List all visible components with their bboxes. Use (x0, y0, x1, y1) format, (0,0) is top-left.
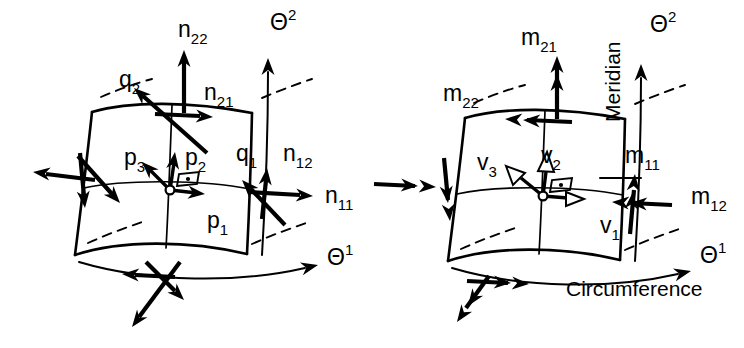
base-vector-p1 (170, 186, 206, 201)
shell-bottom-edge (75, 244, 247, 255)
label-m11: m11 (625, 142, 660, 173)
label-n12: n12 (283, 140, 312, 171)
label-p1: p1 (207, 207, 228, 238)
label-m21: m21 (521, 24, 557, 55)
right-angle-marker-left (177, 172, 199, 186)
force-resultants-panel: n22 Θ2 q2 n21 p3 p2 q1 n12 n11 p1 Θ1 (32, 6, 353, 331)
origin-point-left (166, 186, 175, 195)
shell-hidden-dash-bottom-left (88, 222, 142, 243)
moment-m12 (612, 196, 672, 211)
moment-cluster-left-face (374, 158, 456, 222)
shell-element-diagram: n22 Θ2 q2 n21 p3 p2 q1 n12 n11 p1 Θ1 (0, 0, 744, 348)
moment-cluster-bottom-face (452, 276, 530, 326)
label-v3: v3 (477, 149, 497, 180)
label-n11: n11 (325, 182, 353, 213)
left-face-moment-arrowhead-outer (419, 180, 437, 194)
shell-hidden-dash-top-left-right (474, 85, 525, 103)
m22-arrowhead-outer (505, 113, 523, 127)
theta2-axis-left (262, 58, 275, 255)
shell-right-edge-right (620, 119, 625, 260)
force-cluster-bottom-face (122, 262, 189, 331)
v3-arrowhead (506, 166, 525, 185)
label-m22: m22 (443, 80, 479, 111)
origin-point-right (539, 192, 548, 201)
force-cluster-left-face (32, 153, 125, 209)
shell-hidden-dash-top-right (262, 79, 312, 98)
shell-hidden-dash-bottom-right-right (625, 229, 679, 250)
label-m12: m12 (691, 183, 727, 214)
label-theta1-right: Θ1 (700, 239, 726, 268)
right-angle-marker-right (550, 178, 572, 192)
label-theta1-left: Θ1 (327, 241, 353, 270)
label-p3: p3 (124, 144, 145, 175)
moment-m22 (505, 113, 572, 128)
shell-hidden-dash-top-right-right (635, 85, 685, 104)
force-q2 (130, 83, 207, 153)
annotation-meridian: Meridian (601, 41, 624, 122)
theta1-axis-arrowhead (300, 259, 319, 275)
label-v1: v1 (600, 212, 620, 243)
shell-hidden-dash-bottom-left-right (461, 228, 515, 249)
label-theta2-right: Θ2 (650, 8, 676, 37)
annotation-circumference: Circumference (566, 277, 703, 300)
bottom-face-moment-arrowhead-outer (512, 277, 530, 291)
label-n22: n22 (178, 16, 207, 47)
figure-root: n22 Θ2 q2 n21 p3 p2 q1 n12 n11 p1 Θ1 (0, 0, 744, 348)
label-q1: q1 (236, 140, 257, 171)
label-theta2-left: Θ2 (270, 6, 296, 35)
label-q2: q2 (119, 66, 140, 97)
director-vector-v1 (543, 192, 584, 206)
theta1-axis-left (79, 259, 319, 279)
moment-resultants-panel: m21 Θ2 m22 v3 v2 m11 m12 v1 Θ1 Meridian … (374, 8, 727, 326)
m12-arrowhead-outer (612, 196, 630, 210)
bottom-face-moment-oblique-arrowhead-outer (452, 304, 472, 325)
shell-bottom-edge-right (448, 250, 620, 261)
shell-hidden-dash-bottom-right (252, 223, 306, 244)
v1-arrowhead (566, 192, 584, 206)
